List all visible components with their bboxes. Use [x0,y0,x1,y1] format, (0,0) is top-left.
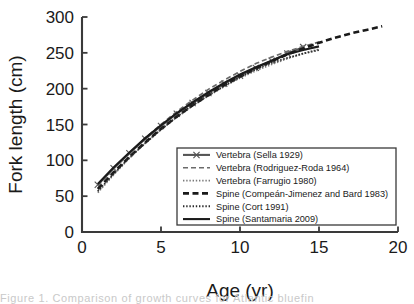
figure-container: 05010015020025030005101520Age (yr)Fork l… [0,0,414,304]
x-tick-label: 20 [389,238,408,257]
legend-label-0: Vertebra (Sella 1929) [216,150,303,160]
legend-label-5: Spine (Santamaria 2009) [216,214,318,224]
x-tick-label: 10 [231,238,250,257]
y-tick-label: 250 [46,44,74,63]
legend: Vertebra (Sella 1929)Vertebra (Rodriguez… [177,148,396,225]
y-tick-label: 100 [46,151,74,170]
figure-caption-fragment: Figure 1. Comparison of growth curves fo… [0,292,414,304]
legend-label-4: Spine (Cort 1991) [216,202,289,212]
legend-label-3: Spine (Compeán-Jimenez and Bard 1983) [216,189,388,199]
y-tick-label: 150 [46,116,74,135]
x-tick-label: 0 [77,238,86,257]
x-tick-label: 5 [156,238,165,257]
y-axis-title: Fork length (cm) [5,55,26,193]
legend-label-2: Vertebra (Farrugio 1980) [216,176,317,186]
legend-label-1: Vertebra (Rodriguez-Roda 1964) [216,163,349,173]
y-tick-label: 300 [46,8,74,27]
growth-curve-chart: 05010015020025030005101520Age (yr)Fork l… [0,0,414,304]
y-tick-label: 50 [55,187,74,206]
x-tick-label: 15 [310,238,329,257]
y-tick-label: 200 [46,80,74,99]
y-tick-label: 0 [65,223,74,242]
